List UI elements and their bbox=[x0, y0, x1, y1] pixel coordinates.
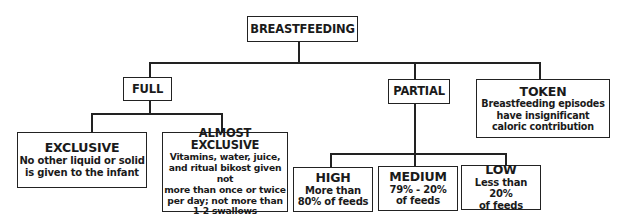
node-title: FULL bbox=[132, 83, 163, 96]
node-desc-line: have insignificant bbox=[497, 110, 590, 121]
node-low: LOW Less than 20% of feeds bbox=[461, 165, 541, 210]
node-desc-line: Less than 20% bbox=[462, 177, 540, 201]
node-title: ALMOST EXCLUSIVE bbox=[163, 127, 287, 152]
node-desc-line: of feeds bbox=[479, 200, 523, 212]
connector-to-partial bbox=[414, 62, 416, 79]
node-title: PARTIAL bbox=[393, 85, 445, 98]
node-title: EXCLUSIVE bbox=[45, 141, 120, 155]
node-full: FULL bbox=[123, 77, 172, 101]
node-token: TOKEN Breastfeeding episodes have insign… bbox=[476, 79, 610, 138]
connector-level1-bar bbox=[149, 62, 540, 64]
connector-full-bar bbox=[91, 113, 222, 115]
node-partial: PARTIAL bbox=[388, 79, 450, 104]
node-title: HIGH bbox=[315, 171, 350, 185]
connector-to-high bbox=[330, 153, 332, 167]
node-almost-exclusive: ALMOST EXCLUSIVE Vitamins, water, juice,… bbox=[162, 132, 288, 212]
node-desc-line: Breastfeeding episodes bbox=[481, 98, 604, 109]
node-desc-line: and ritual bikost given not bbox=[163, 163, 287, 185]
connector-to-exclusive bbox=[91, 113, 93, 132]
node-desc-line: caloric contribution bbox=[492, 121, 594, 132]
node-desc-line: More than bbox=[305, 185, 361, 197]
node-desc-line: more than once or twice bbox=[164, 185, 286, 196]
node-desc-line: 80% of feeds bbox=[298, 196, 369, 208]
node-title: LOW bbox=[485, 163, 516, 177]
connector-to-token bbox=[539, 62, 541, 79]
node-title: MEDIUM bbox=[389, 170, 446, 184]
node-desc-line: 79% - 20% bbox=[389, 184, 446, 196]
node-breastfeeding: BREASTFEEDING bbox=[247, 16, 358, 42]
node-desc-line: No other liquid or solid bbox=[19, 155, 144, 167]
connector-root-down bbox=[298, 42, 300, 63]
node-high: HIGH More than 80% of feeds bbox=[293, 167, 373, 212]
node-title: TOKEN bbox=[520, 85, 567, 99]
connector-partial-down bbox=[414, 104, 416, 166]
node-title: BREASTFEEDING bbox=[250, 23, 354, 36]
node-medium: MEDIUM 79% - 20% of feeds bbox=[378, 166, 458, 211]
node-exclusive: EXCLUSIVE No other liquid or solid is gi… bbox=[17, 132, 147, 188]
connector-partial-bar bbox=[330, 153, 506, 155]
node-desc-line: of feeds bbox=[396, 195, 440, 207]
node-desc-line: is given to the infant bbox=[25, 167, 139, 179]
connector-to-full bbox=[149, 62, 151, 77]
node-desc-line: 1-2 swallows bbox=[193, 206, 257, 217]
